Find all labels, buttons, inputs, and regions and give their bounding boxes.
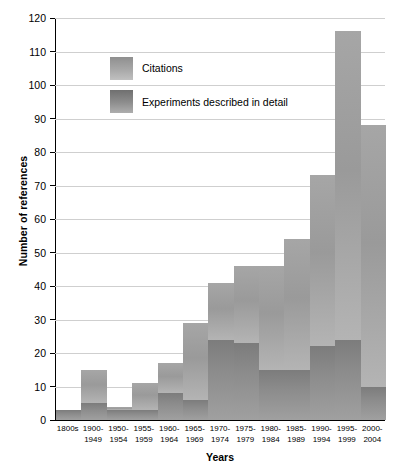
bar-segment-citations xyxy=(361,125,386,386)
bar-segment-experiments xyxy=(310,346,335,420)
x-axis-tick-label-line: 2000- xyxy=(357,424,388,435)
legend-item: Citations xyxy=(110,57,183,80)
y-axis-tick-label: 80 xyxy=(0,147,46,158)
y-axis-tick-label: 10 xyxy=(0,382,46,393)
bar-segment-experiments xyxy=(335,340,360,420)
y-axis-tick-label: 20 xyxy=(0,348,46,359)
y-axis-tick xyxy=(50,85,55,86)
bar-segment-experiments xyxy=(132,410,157,420)
y-axis-tick-label: 120 xyxy=(0,13,46,24)
y-axis-tick xyxy=(50,152,55,153)
x-axis-tick-labels: 1800s1900-19491950-19541955-19591960-196… xyxy=(55,424,385,450)
y-axis-tick-label: 50 xyxy=(0,248,46,259)
bar-group xyxy=(234,266,259,420)
bar-segment-citations xyxy=(81,370,106,404)
y-axis-tick xyxy=(50,118,55,119)
bar-group xyxy=(81,370,106,420)
bar-group xyxy=(183,323,208,420)
y-axis-tick-label: 40 xyxy=(0,281,46,292)
bar-group xyxy=(132,383,157,420)
x-axis-tick-label-line: 2004 xyxy=(357,435,388,446)
bar-group xyxy=(107,407,132,420)
y-axis-tick xyxy=(50,219,55,220)
bar-group xyxy=(158,363,183,420)
bar-group xyxy=(361,125,386,420)
legend-swatch-citations xyxy=(110,57,133,80)
bar-group xyxy=(310,175,335,420)
bar-group xyxy=(56,410,81,420)
y-axis-tick xyxy=(50,353,55,354)
y-axis-tick-label: 100 xyxy=(0,80,46,91)
bar-segment-citations xyxy=(335,31,360,339)
y-axis-tick xyxy=(50,185,55,186)
legend-label: Citations xyxy=(142,62,183,74)
y-axis-tick-label: 90 xyxy=(0,114,46,125)
bar-segment-experiments xyxy=(107,410,132,420)
bar-segment-citations xyxy=(284,239,309,370)
x-axis-tick-label: 2000-2004 xyxy=(357,424,388,445)
bar-segment-experiments xyxy=(56,410,81,420)
y-axis-tick xyxy=(50,420,55,421)
bar-segment-experiments xyxy=(361,387,386,421)
y-axis-tick-label: 30 xyxy=(0,315,46,326)
bar-segment-citations xyxy=(183,323,208,400)
bar-segment-experiments xyxy=(234,343,259,420)
legend-label: Experiments described in detail xyxy=(142,96,288,108)
y-axis-tick xyxy=(50,18,55,19)
y-axis-tick-label: 70 xyxy=(0,181,46,192)
bar-segment-experiments xyxy=(158,393,183,420)
bar-segment-experiments xyxy=(259,370,284,420)
bar-segment-experiments xyxy=(284,370,309,420)
bar-segment-citations xyxy=(259,266,284,370)
bar-chart: Number of references 0102030405060708090… xyxy=(0,0,401,472)
y-axis-tick xyxy=(50,319,55,320)
bar-group xyxy=(208,283,233,420)
bar-segment-citations xyxy=(158,363,183,393)
bars-layer xyxy=(56,18,385,420)
bar-group xyxy=(284,239,309,420)
y-axis-tick xyxy=(50,51,55,52)
bar-segment-citations xyxy=(208,283,233,340)
plot-area: 0102030405060708090100110120 CitationsEx… xyxy=(55,18,385,420)
y-axis-tick-label: 60 xyxy=(0,214,46,225)
y-axis-tick xyxy=(50,286,55,287)
y-axis-tick-label: 110 xyxy=(0,47,46,58)
y-axis-tick xyxy=(50,386,55,387)
bar-segment-experiments xyxy=(183,400,208,420)
bar-segment-experiments xyxy=(81,403,106,420)
y-axis-tick-label: 0 xyxy=(0,415,46,426)
bar-group xyxy=(335,31,360,420)
legend-swatch-experiments xyxy=(110,90,133,113)
x-axis-title: Years xyxy=(55,451,385,463)
legend-item: Experiments described in detail xyxy=(110,90,288,113)
bar-segment-citations xyxy=(132,383,157,410)
x-axis-line xyxy=(55,420,385,421)
bar-segment-experiments xyxy=(208,340,233,420)
bar-group xyxy=(259,266,284,420)
y-axis-tick xyxy=(50,252,55,253)
bar-segment-citations xyxy=(310,175,335,346)
bar-segment-citations xyxy=(234,266,259,343)
